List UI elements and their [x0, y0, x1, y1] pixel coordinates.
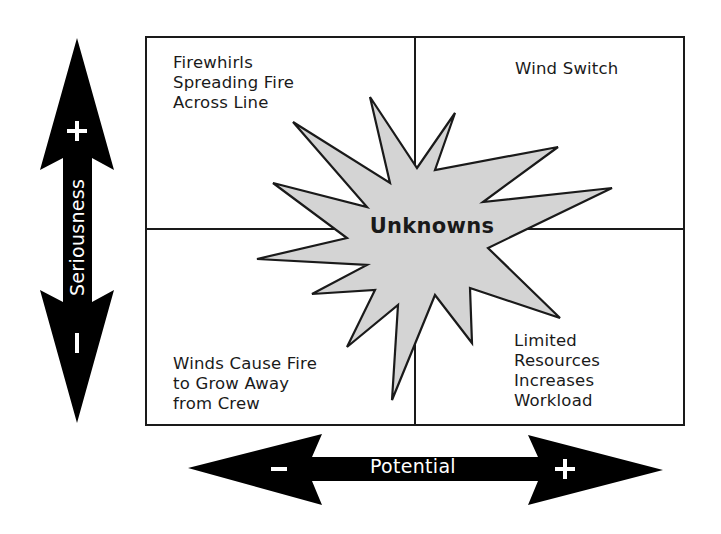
label-line: Firewhirls	[173, 53, 294, 73]
label-line: from Crew	[173, 394, 317, 414]
quadrant-label-bottom-right: Limited Resources Increases Workload	[514, 331, 600, 411]
label-line: Increases	[514, 371, 600, 391]
label-line: Spreading Fire	[173, 73, 294, 93]
label-line: Wind Switch	[515, 59, 618, 79]
risk-quadrant-diagram	[0, 0, 721, 534]
label-line: Across Line	[173, 93, 294, 113]
label-line: Workload	[514, 391, 600, 411]
quadrant-label-bottom-left: Winds Cause Fire to Grow Away from Crew	[173, 354, 317, 414]
potential-axis-label: Potential	[370, 455, 456, 477]
label-line: Winds Cause Fire	[173, 354, 317, 374]
label-line: Resources	[514, 351, 600, 371]
quadrant-label-top-right: Wind Switch	[515, 59, 618, 79]
quadrant-label-top-left: Firewhirls Spreading Fire Across Line	[173, 53, 294, 113]
seriousness-axis-label: Seriousness	[66, 179, 88, 296]
label-line: Limited	[514, 331, 600, 351]
unknowns-label: Unknowns	[352, 214, 512, 238]
label-line: to Grow Away	[173, 374, 317, 394]
